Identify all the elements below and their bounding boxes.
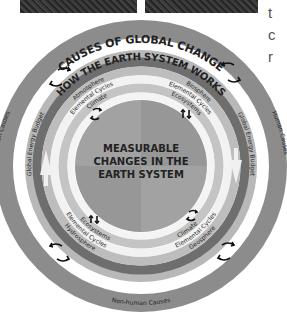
center-line-2: CHANGES IN THE [93, 156, 188, 167]
earth-system-diagram: MEASURABLE CHANGES IN THE EARTH SYSTEM C… [0, 0, 287, 319]
center-line-1: MEASURABLE [103, 143, 179, 154]
center-line-3: EARTH SYSTEM [98, 169, 184, 180]
